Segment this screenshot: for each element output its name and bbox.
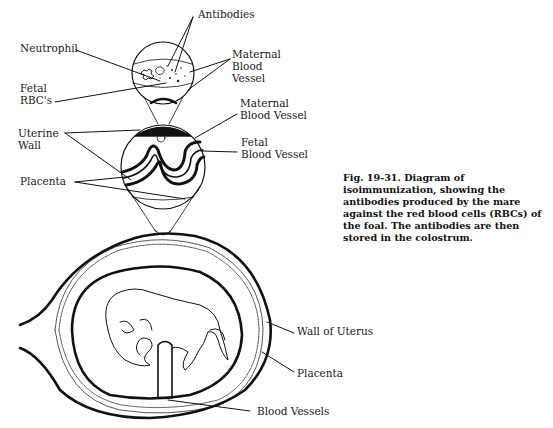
label-line: Wall: [18, 139, 59, 151]
label-uterine-wall: Uterine Wall: [18, 127, 59, 151]
label-line: Maternal: [232, 48, 281, 60]
label-maternal-blood-vessel-mid: Maternal Blood Vessel: [240, 97, 307, 121]
top-magnified-circle: [132, 42, 194, 104]
label-maternal-blood-vessel-top: Maternal Blood Vessel: [232, 48, 281, 84]
uterus-outline: [20, 233, 271, 418]
label-placenta-bottom: Placenta: [297, 367, 343, 379]
label-placenta-mid: Placenta: [20, 175, 66, 187]
middle-magnified-circle: [121, 125, 205, 209]
label-neutrophil: Neutrophil: [20, 42, 78, 54]
label-line: Blood Vessel: [241, 148, 308, 160]
label-fetal-rbcs: Fetal RBC's: [20, 82, 52, 106]
label-line: Maternal: [240, 97, 307, 109]
label-line: Vessel: [232, 72, 281, 84]
zoom-cone-bottom: [126, 186, 200, 235]
label-wall-of-uterus: Wall of Uterus: [297, 325, 373, 337]
label-line: Blood Vessel: [240, 109, 307, 121]
label-blood-vessels: Blood Vessels: [257, 405, 329, 417]
label-antibodies: Antibodies: [198, 8, 255, 20]
figure-caption: Fig. 19-31. Diagram of isoimmunization, …: [343, 172, 548, 244]
label-line: Blood: [232, 60, 281, 72]
label-line: Uterine: [18, 127, 59, 139]
label-line: Fetal: [241, 136, 308, 148]
foal-drawing: [106, 289, 228, 370]
label-fetal-blood-vessel: Fetal Blood Vessel: [241, 136, 308, 160]
label-line: Fetal: [20, 82, 52, 94]
label-line: RBC's: [20, 94, 52, 106]
